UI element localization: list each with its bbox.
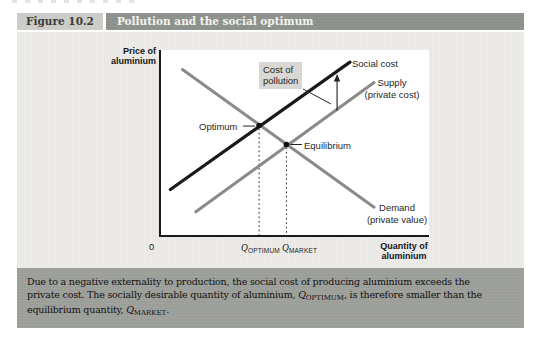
demand-line-label: Demand (private value): [361, 202, 433, 225]
caption-q-market: Q: [126, 304, 134, 315]
x-axis-title: Quantity of aluminium: [369, 241, 439, 261]
caption-q-optimum: Q: [298, 289, 306, 300]
origin-label: 0: [149, 241, 154, 253]
textbook-figure-page: Figure 10.2 Pollution and the social opt…: [0, 0, 541, 342]
caption-line-2: private cost. The socially desirable qua…: [27, 288, 514, 303]
social-cost-line-label: Social cost: [352, 58, 398, 70]
x-tick-q-market: QMARKET: [282, 243, 317, 253]
equilibrium-point-label: Equilibrium: [304, 140, 351, 152]
scan-crop-artifact: [12, 0, 142, 3]
caption-line-1: Due to a negative externality to product…: [27, 275, 514, 288]
figure-caption: Due to a negative externality to product…: [17, 268, 524, 328]
figure-title-bar: Pollution and the social optimum: [106, 13, 524, 30]
supply-line-label: Supply (private cost): [356, 77, 428, 100]
q-market-symbol: Q: [282, 243, 289, 253]
optimum-point-label: Optimum: [199, 121, 238, 133]
figure-number-label: Figure 10.2: [17, 13, 103, 30]
q-optimum-symbol: Q: [241, 243, 248, 253]
q-optimum-subscript: OPTIMUM: [248, 247, 280, 254]
q-market-subscript: MARKET: [289, 247, 317, 254]
caption-line-3: equilibrium quantity, QMARKET.: [27, 303, 514, 318]
cost-of-pollution-callout: Cost of pollution: [259, 62, 302, 89]
y-axis-title: Price of aluminium: [96, 46, 156, 66]
x-tick-q-optimum: QOPTIMUM: [241, 243, 280, 253]
